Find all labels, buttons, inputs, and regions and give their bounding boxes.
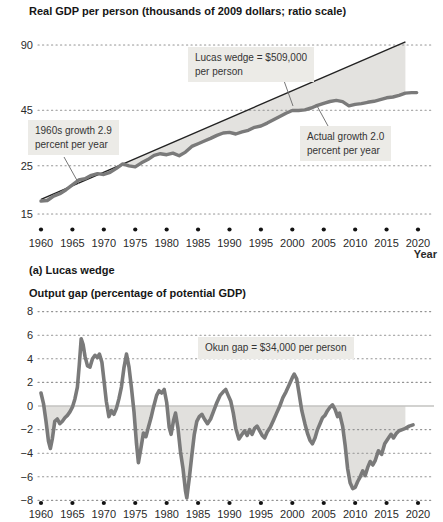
x-axis-year-label-b: 1965 (60, 508, 84, 520)
y-axis-tick-label-b: −6 (20, 471, 33, 483)
annotation-okun-gap-text: Okun gap = $34,000 per person (205, 341, 347, 355)
x-axis-year-label-a: 2000 (280, 237, 304, 249)
x-axis-year-label-b: 1985 (186, 508, 210, 520)
x-axis-tick-dot-b (259, 501, 263, 505)
x-axis-tick-dot-b (165, 501, 169, 505)
annotation-lucas-wedge-line2: per person (195, 65, 307, 79)
lucas-okun-figure: 9045251519601965197019751980198519901995… (0, 0, 443, 522)
y-axis-tick-label-b: −4 (20, 447, 33, 459)
annotation-lucas-wedge: Lucas wedge = $509,000 per person (188, 47, 314, 82)
x-axis-tick-dot-a (196, 227, 200, 231)
annotation-okun-gap: Okun gap = $34,000 per person (198, 337, 354, 359)
x-axis-year-label-b: 1980 (154, 508, 178, 520)
x-axis-tick-dot-a (384, 227, 388, 231)
annotation-actual-growth-line2: percent per year (307, 144, 384, 158)
x-axis-tick-dot-b (39, 501, 43, 505)
panel-b-axis-title: Output gap (percentage of potential GDP) (29, 287, 246, 300)
x-axis-year-label-a: 1970 (92, 237, 116, 249)
panel-a-caption: (a) Lucas wedge (29, 264, 115, 277)
x-axis-year-label-a: 2020 (406, 237, 430, 249)
y-axis-tick-label-a: 90 (21, 39, 33, 51)
y-axis-tick-label-a: 25 (21, 160, 33, 172)
x-axis-title-year: Year (414, 248, 438, 260)
x-axis-tick-dot-b (70, 501, 74, 505)
y-axis-tick-label-b: 4 (27, 353, 33, 365)
x-axis-year-label-a: 2010 (343, 237, 367, 249)
x-axis-tick-dot-a (70, 227, 74, 231)
x-axis-tick-dot-b (196, 501, 200, 505)
x-axis-tick-dot-a (290, 227, 294, 231)
x-axis-year-label-a: 1960 (29, 237, 53, 249)
y-axis-tick-label-b: 2 (27, 376, 33, 388)
x-axis-year-label-b: 2015 (374, 508, 398, 520)
x-axis-year-label-b: 1975 (123, 508, 147, 520)
x-axis-tick-dot-a (133, 227, 137, 231)
x-axis-tick-dot-a (39, 227, 43, 231)
x-axis-year-label-a: 1965 (60, 237, 84, 249)
x-axis-year-label-a: 1975 (123, 237, 147, 249)
x-axis-tick-dot-b (227, 501, 231, 505)
x-axis-tick-dot-a (322, 227, 326, 231)
x-axis-tick-dot-b (102, 501, 106, 505)
annotation-1960s-growth-line2: percent per year (35, 138, 112, 152)
x-axis-tick-dot-a (165, 227, 169, 231)
x-axis-tick-dot-a (259, 227, 263, 231)
y-axis-tick-label-b: 6 (27, 329, 33, 341)
x-axis-tick-dot-b (290, 501, 294, 505)
annotation-1960s-growth: 1960s growth 2.9 percent per year (28, 120, 119, 155)
x-axis-tick-dot-a (416, 227, 420, 231)
x-axis-year-label-a: 2005 (312, 237, 336, 249)
y-axis-tick-label-a: 15 (21, 208, 33, 220)
x-axis-tick-dot-b (384, 501, 388, 505)
x-axis-tick-dot-a (102, 227, 106, 231)
x-axis-tick-dot-b (353, 501, 357, 505)
x-axis-year-label-b: 1990 (217, 508, 241, 520)
y-axis-tick-label-b: −2 (20, 423, 33, 435)
y-axis-tick-label-b: 8 (27, 305, 33, 317)
x-axis-year-label-a: 2015 (374, 237, 398, 249)
annotation-actual-growth: Actual growth 2.0 percent per year (300, 126, 391, 161)
annotation-lucas-wedge-line1: Lucas wedge = $509,000 (195, 51, 307, 65)
x-axis-tick-dot-b (133, 501, 137, 505)
x-axis-year-label-b: 2020 (406, 508, 430, 520)
x-axis-tick-dot-a (353, 227, 357, 231)
y-axis-tick-label-b: −8 (20, 494, 33, 506)
callout-line-1960s (64, 157, 79, 184)
callout-line-actual (316, 104, 328, 126)
x-axis-year-label-b: 2005 (312, 508, 336, 520)
x-axis-tick-dot-b (416, 501, 420, 505)
y-axis-tick-label-b: 0 (27, 400, 33, 412)
y-axis-tick-label-a: 45 (21, 104, 33, 116)
x-axis-year-label-a: 1990 (217, 237, 241, 249)
x-axis-year-label-b: 2010 (343, 508, 367, 520)
x-axis-year-label-b: 1970 (92, 508, 116, 520)
panel-a-axis-title: Real GDP per person (thousands of 2009 d… (29, 5, 346, 18)
x-axis-year-label-a: 1980 (154, 237, 178, 249)
x-axis-tick-dot-a (227, 227, 231, 231)
x-axis-year-label-b: 1995 (249, 508, 273, 520)
x-axis-year-label-a: 1995 (249, 237, 273, 249)
x-axis-year-label-a: 1985 (186, 237, 210, 249)
annotation-actual-growth-line1: Actual growth 2.0 (307, 130, 384, 144)
x-axis-year-label-b: 1960 (29, 508, 53, 520)
annotation-1960s-growth-line1: 1960s growth 2.9 (35, 124, 112, 138)
x-axis-year-label-b: 2000 (280, 508, 304, 520)
x-axis-tick-dot-b (322, 501, 326, 505)
